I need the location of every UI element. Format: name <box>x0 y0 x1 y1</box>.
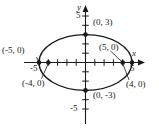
ellipse-figure: x y -5 5 5 -5 (-5, 0) (5, 0) (-4, 0) (4,… <box>0 0 159 135</box>
label-focus-right: (4, 0) <box>126 80 146 89</box>
label-focus-left: (-4, 0) <box>22 79 45 88</box>
label-vertex-right: (5, 0) <box>99 43 119 52</box>
point-co-vertex-bottom <box>83 88 88 93</box>
leader-lines <box>37 51 130 80</box>
x-tick-label-5: 5 <box>130 64 135 73</box>
x-axis <box>24 60 145 66</box>
y-tick-label-neg5: -5 <box>70 104 78 113</box>
leader-vertex-right <box>111 51 123 63</box>
label-co-vertex-bottom: (0, -3) <box>93 91 116 100</box>
x-tick-label-neg5: -5 <box>30 64 38 73</box>
label-vertex-left: (-5, 0) <box>2 46 25 55</box>
point-co-vertex-top <box>83 32 88 37</box>
coordinate-plane-svg <box>0 0 159 135</box>
leader-focus-right <box>123 64 129 81</box>
y-axis <box>83 5 89 124</box>
point-focus-right <box>120 60 125 65</box>
label-co-vertex-top: (0, 3) <box>93 18 113 27</box>
point-focus-left <box>46 60 51 65</box>
x-axis-label: x <box>132 49 136 58</box>
y-tick-label-5: 5 <box>76 11 81 20</box>
